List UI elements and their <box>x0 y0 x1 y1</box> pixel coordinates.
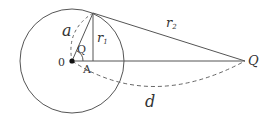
label-A: A <box>82 63 92 76</box>
label-d: d <box>145 92 155 111</box>
label-theta: Q <box>77 43 86 56</box>
diagram-canvas: a r1 r2 Q 0 A Q d <box>0 0 269 120</box>
label-a: a <box>62 21 72 40</box>
geometry-figure: a r1 r2 Q 0 A Q d <box>0 0 269 120</box>
label-origin: 0 <box>58 56 65 69</box>
label-r2: r2 <box>166 15 177 31</box>
label-Q: Q <box>248 53 259 68</box>
origin-point <box>69 58 74 63</box>
dashed-arc-d <box>72 61 245 87</box>
label-r1: r1 <box>97 30 108 46</box>
